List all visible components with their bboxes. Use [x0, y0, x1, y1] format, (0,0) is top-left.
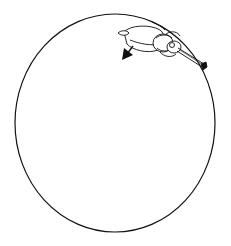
figure: [0, 0, 231, 246]
circular-path: [15, 14, 215, 232]
direction-arrow-icon: [122, 46, 133, 60]
diagram-svg: [0, 0, 231, 246]
